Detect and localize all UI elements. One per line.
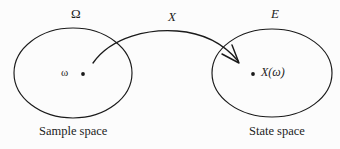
image-point-dot xyxy=(251,72,255,76)
sample-point-dot xyxy=(81,72,85,76)
sample-space-set-label: Ω xyxy=(71,7,81,20)
state-space-set-label: E xyxy=(271,7,279,20)
image-point-label: X(ω) xyxy=(261,66,285,78)
mapping-label: X xyxy=(168,10,176,23)
state-space-caption: State space xyxy=(249,125,305,138)
random-variable-diagram: Ω E X ω X(ω) Sample space State space xyxy=(0,0,340,149)
sample-point-label: ω xyxy=(61,67,68,78)
sample-space-caption: Sample space xyxy=(39,125,107,138)
sample-space-ellipse xyxy=(14,28,132,118)
mapping-arrow-curve xyxy=(93,31,238,63)
